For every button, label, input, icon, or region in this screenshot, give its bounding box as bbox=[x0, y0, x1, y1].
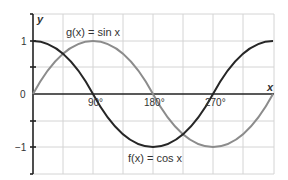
x-tick-180: 180° bbox=[144, 97, 165, 108]
y-tick-minus-1: −1 bbox=[15, 142, 27, 153]
x-tick-270: 270° bbox=[205, 97, 226, 108]
cos-label: f(x) = cos x bbox=[128, 152, 183, 164]
y-tick-1: 1 bbox=[21, 36, 27, 47]
y-axis-label: y bbox=[36, 13, 44, 25]
trig-chart: y x 1 0 −1 90° 180° 270° g(x) = sin x f(… bbox=[0, 0, 288, 180]
y-tick-0: 0 bbox=[20, 89, 26, 100]
sin-label: g(x) = sin x bbox=[66, 26, 121, 38]
x-axis-label: x bbox=[266, 81, 274, 93]
x-tick-90: 90° bbox=[88, 97, 103, 108]
